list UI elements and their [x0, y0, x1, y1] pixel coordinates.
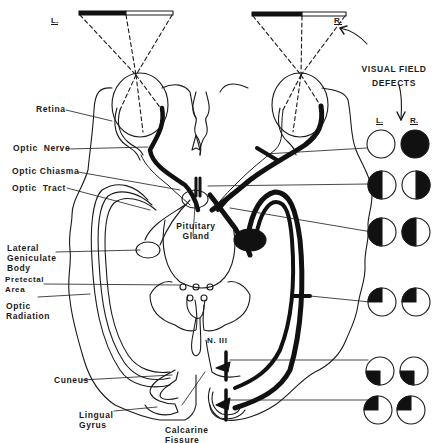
visual-field-header-line1: VISUAL FIELD	[352, 64, 436, 74]
visual-field-header-line2: DEFECTS	[352, 78, 436, 88]
visual-field-row-5	[366, 357, 428, 385]
field-left-normal	[367, 130, 395, 158]
left-optic-nerve-nasal	[150, 108, 198, 210]
label-optic-chiasma: Optic Chiasma	[12, 166, 79, 176]
label-n-iii: N. III	[207, 336, 228, 346]
visual-field-row-6	[364, 396, 425, 424]
left-eye-visual-field-bar	[79, 11, 173, 15]
label-optic-tract: Optic Tract	[12, 183, 66, 193]
label-cuneus: Cuneus	[54, 375, 89, 385]
field-column-right-label: R.	[410, 116, 418, 125]
visual-pathway-diagram: L. R. VISUAL FIELD DEFECTS L. R. Retina …	[0, 0, 439, 443]
leader-lines	[38, 110, 372, 411]
visual-field-row-4	[368, 288, 430, 316]
visual-field-row-3	[368, 218, 430, 246]
right-eye-label: R.	[334, 16, 342, 25]
label-optic-radiation: Optic Radiation	[6, 301, 50, 321]
left-optic-radiation	[91, 185, 190, 387]
right-eye-visual-field-bar	[252, 12, 346, 16]
label-optic-nerve: Optic Nerve	[13, 143, 70, 153]
visual-field-row-2	[368, 171, 430, 199]
arrow-to-right-column	[399, 85, 402, 120]
left-eye-label: L.	[51, 16, 58, 25]
curved-arrow-to-right-eye	[340, 28, 367, 44]
label-pituitary-gland: Pituitary Gland	[166, 221, 226, 241]
label-pretectal-area: Pretectal Area	[5, 275, 44, 295]
visual-field-row-1	[367, 130, 429, 158]
right-eye-projection-lines	[253, 16, 345, 132]
field-right-blind	[401, 130, 429, 158]
label-calcarine-fissure: Calcarine Fissure	[165, 425, 209, 443]
label-lingual-gyrus: Lingual Gyrus	[79, 410, 113, 430]
label-lateral-geniculate-body: Lateral Geniculate Body	[7, 243, 56, 273]
label-retina: Retina	[36, 104, 66, 114]
field-column-left-label: L.	[376, 116, 383, 125]
